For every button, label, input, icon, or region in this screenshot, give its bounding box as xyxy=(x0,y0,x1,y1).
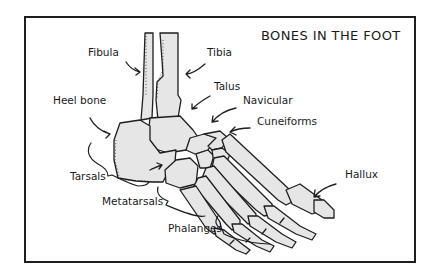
diagram-title: BONES IN THE FOOT xyxy=(261,28,401,43)
label-tarsals: Tarsals xyxy=(69,170,106,182)
label-phalanges: Phalanges xyxy=(168,222,222,234)
label-heel-bone: Heel bone xyxy=(53,94,106,106)
label-cuneiforms: Cuneiforms xyxy=(257,115,317,127)
label-metatarsals: Metatarsals xyxy=(102,195,163,207)
cuneiform-bone-2 xyxy=(196,150,214,168)
label-hallux: Hallux xyxy=(345,168,378,180)
label-fibula: Fibula xyxy=(88,46,119,58)
foot-bones-diagram: BONES IN THE FOOT xyxy=(0,0,435,273)
label-navicular: Navicular xyxy=(243,94,293,106)
label-tibia: Tibia xyxy=(206,46,232,58)
label-talus: Talus xyxy=(213,80,240,92)
